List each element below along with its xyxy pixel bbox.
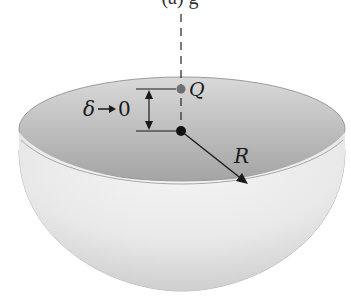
delta-limit-value: 0 — [118, 97, 131, 121]
delta-symbol: δ — [83, 97, 95, 121]
point-q — [177, 85, 186, 94]
point-q-label: Q — [189, 78, 205, 100]
figure-caption: (a) g — [161, 0, 198, 9]
hemisphere-diagram: (a) g δ 0 Q R — [0, 0, 351, 297]
radius-label: R — [233, 144, 249, 168]
